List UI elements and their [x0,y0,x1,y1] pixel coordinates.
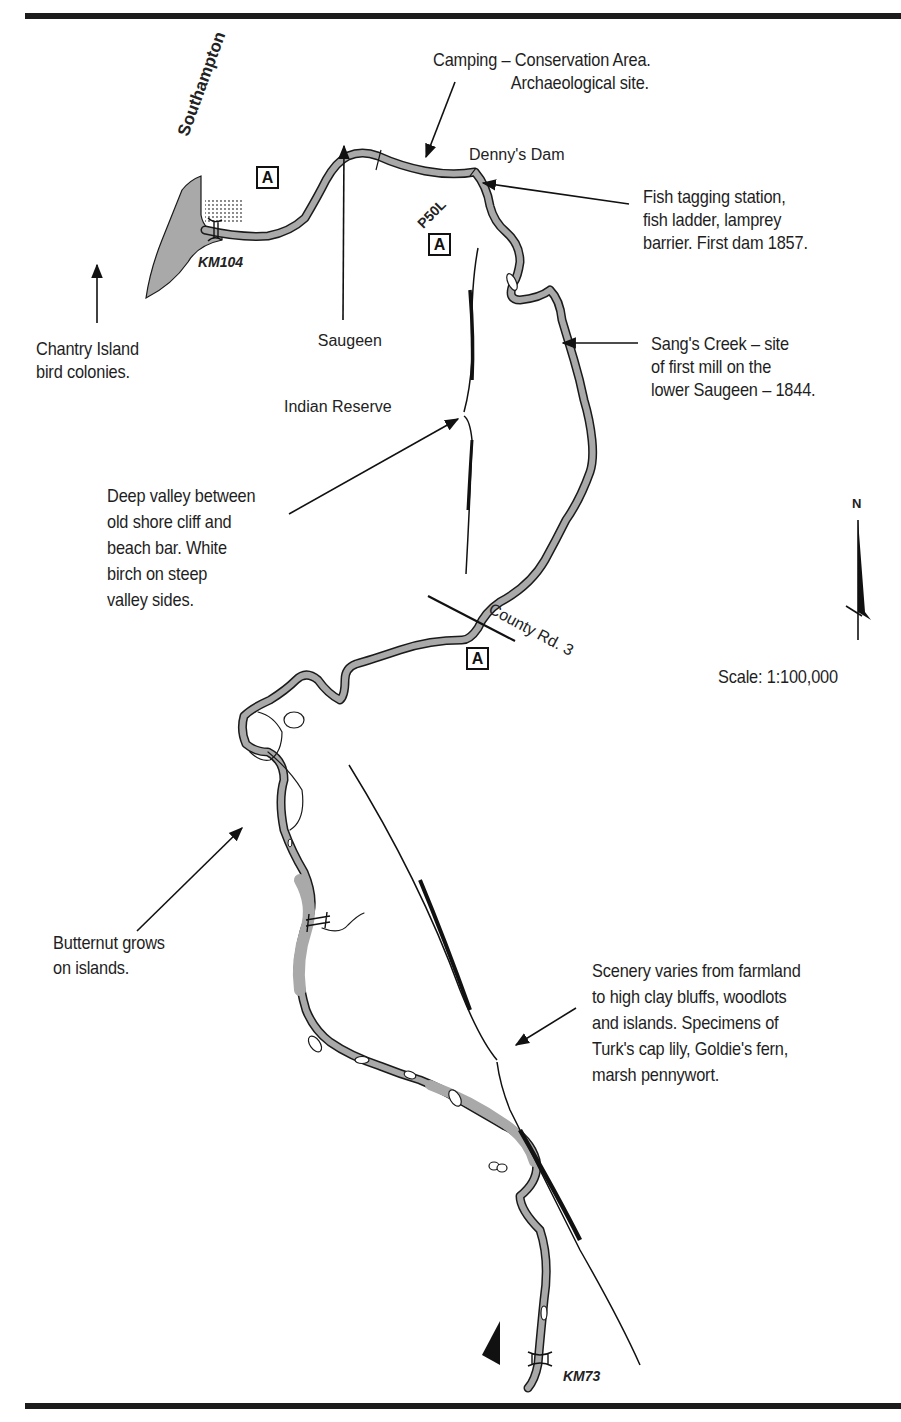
north-label: N [852,496,861,511]
saugeen-line1: Saugeen [308,330,392,352]
saugeen-line2: Indian Reserve [284,396,392,418]
scale-label: Scale: 1:100,000 [718,665,838,688]
direction-arrow-icon [482,1321,500,1365]
note-chantry-island: Chantry Island bird colonies. [36,337,139,383]
place-dennys-dam: Denny's Dam [469,146,565,164]
km-start-label: KM104 [198,254,243,270]
place-saugeen-reserve: Saugeen Indian Reserve [308,286,392,440]
note-scenery: Scenery varies from farmland to high cla… [592,958,801,1088]
access-point-icon: A [428,233,451,256]
arrow-scenery [516,1008,576,1045]
access-point-icon: A [256,166,279,189]
saugeen-river [205,153,593,1388]
note-camping: Camping – Conservation Area. Archaeologi… [433,48,651,94]
bluff-lines [349,248,640,1365]
arrow-fish [483,183,629,204]
km-end-label: KM73 [563,1368,600,1384]
access-point-icon: A [466,647,489,670]
north-arrow-icon [846,520,871,640]
note-fish-station: Fish tagging station, fish ladder, lampr… [643,185,808,254]
arrow-butternut [137,828,242,931]
note-sangs-creek: Sang's Creek – site of first mill on the… [651,332,815,401]
note-butternut: Butternut grows on islands. [53,930,165,980]
note-deep-valley: Deep valley between old shore cliff and … [107,483,255,613]
